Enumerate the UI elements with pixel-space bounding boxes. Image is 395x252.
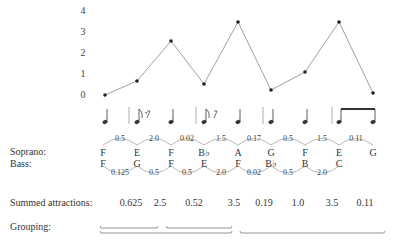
soprano-attraction: 1.5 xyxy=(209,134,233,143)
summed-attraction: 0.19 xyxy=(250,197,278,208)
soprano-note: G xyxy=(367,147,379,158)
soprano-note: G xyxy=(265,147,277,158)
bass-attraction: 2.0 xyxy=(209,168,233,177)
bass-attraction: 0.5 xyxy=(175,168,199,177)
soprano-attraction: 0.02 xyxy=(175,134,199,143)
bass-attraction: 2.0 xyxy=(310,168,334,177)
summed-attraction: 3.5 xyxy=(318,197,346,208)
grouping-label: Grouping: xyxy=(10,221,51,232)
soprano-attraction: 1.5 xyxy=(310,134,334,143)
soprano-attraction: 2.0 xyxy=(142,134,166,143)
summed-attraction: 0.52 xyxy=(180,197,208,208)
group-bracket-3 xyxy=(100,231,232,233)
soprano-note: A xyxy=(232,147,244,158)
bass-note: C xyxy=(333,158,345,169)
soprano-attraction: 0.17 xyxy=(242,134,266,143)
soprano-attraction: 0.11 xyxy=(344,134,368,143)
soprano-label: Soprano: xyxy=(10,146,46,157)
soprano-note: F xyxy=(97,147,109,158)
svg-text:𝄾: 𝄾 xyxy=(145,109,147,118)
group-bracket-4 xyxy=(240,231,385,233)
soprano-note: F xyxy=(165,147,177,158)
summed-attraction: 2.5 xyxy=(146,197,174,208)
bass-attraction: 0.125 xyxy=(108,168,132,177)
summed-attraction: 0.625 xyxy=(117,197,145,208)
summed-attractions-label: Summed attractions: xyxy=(10,197,93,208)
soprano-attraction: 0.5 xyxy=(276,134,300,143)
group-bracket-2 xyxy=(166,226,232,228)
chart-line xyxy=(105,22,373,95)
bass-attraction: 0.5 xyxy=(276,168,300,177)
bass-label: Bass: xyxy=(10,158,32,169)
bass-attraction: 0.02 xyxy=(242,168,266,177)
chart-points xyxy=(103,20,375,97)
group-bracket-1 xyxy=(100,226,158,228)
soprano-attraction: 0.5 xyxy=(108,134,132,143)
soprano-note: B♭ xyxy=(198,147,210,158)
bass-attraction: 0.5 xyxy=(142,168,166,177)
grouping-brackets xyxy=(100,226,385,233)
summed-attraction: 3.5 xyxy=(220,197,248,208)
summed-attraction: 0.11 xyxy=(351,197,379,208)
summed-attraction: 1.0 xyxy=(284,197,312,208)
rhythm-notation: 𝄾 xyxy=(102,107,375,124)
soprano-note: E xyxy=(333,147,345,158)
soprano-note: E xyxy=(131,147,143,158)
soprano-note: F xyxy=(299,147,311,158)
attraction-line-chart: 𝄾 xyxy=(0,0,395,252)
